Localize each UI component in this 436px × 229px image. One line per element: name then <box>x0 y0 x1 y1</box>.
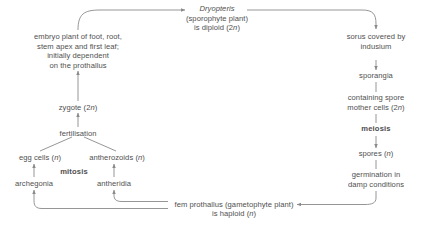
node-embryo-line1: embryo plant of foot, root, <box>18 32 138 42</box>
node-gametophyte-line2: is haploid (n) <box>170 209 298 219</box>
node-gametophyte-line1: fem prothallus (gametophyte plant) <box>170 200 298 210</box>
node-zygote: zygote (2n) <box>44 103 112 113</box>
node-antheridia: antheridia <box>85 179 143 189</box>
arrow-germination-to-gametophyte <box>297 191 376 205</box>
line-egg-cells-to-fertilisation <box>40 137 72 151</box>
node-sorus-line1: sorus covered by <box>334 32 418 42</box>
node-meiosis: meiosis <box>346 124 406 134</box>
node-germination-line1: germination in <box>334 170 418 180</box>
node-spore-mother-cells-line2: mother cells (2n) <box>334 103 418 113</box>
node-antherozoids: antherozoids (n) <box>78 153 156 163</box>
node-sporophyte-line2: (sporophyte plant) <box>178 14 256 24</box>
node-egg-cells: egg cells (n) <box>6 153 74 163</box>
arrow-sporophyte-to-sorus <box>247 10 376 29</box>
fern-life-cycle-diagram: Dryopteris (sporophyte plant) is diploid… <box>0 0 436 229</box>
node-sporangia: sporangia <box>342 71 410 81</box>
node-archegonia: archegonia <box>4 179 64 189</box>
node-sporophyte-name: Dryopteris <box>186 4 248 14</box>
node-mitosis: mitosis <box>44 167 104 177</box>
arrow-gametophyte-to-antheridia <box>114 190 168 202</box>
node-sporophyte-line3: is diploid (2n) <box>178 23 256 33</box>
arrow-embryo-to-sporophyte <box>78 10 185 30</box>
node-fertilisation: fertilisation <box>44 129 112 139</box>
node-embryo-line2: stem apex and first leaf; <box>18 42 138 52</box>
node-embryo-line4: on the prothallus <box>18 61 138 71</box>
node-embryo-line3: initially dependent <box>18 51 138 61</box>
node-spores: spores (n) <box>342 149 410 159</box>
node-germination-line2: damp conditions <box>334 180 418 190</box>
node-sorus-line2: indusium <box>334 42 418 52</box>
line-antherozoids-to-fertilisation <box>84 137 116 151</box>
node-spore-mother-cells-line1: containing spore <box>334 93 418 103</box>
arrow-gametophyte-to-archegonia <box>34 190 168 209</box>
